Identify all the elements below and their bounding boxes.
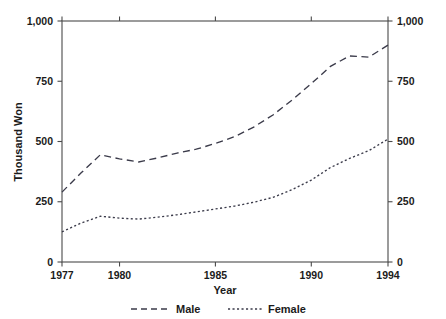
y-tick-label-right-1000: 1,000 [397, 15, 423, 27]
y-axis-title: Thousand Won [12, 102, 24, 182]
y-tick-label-left-1000: 1,000 [27, 15, 53, 27]
line-chart: 1977198019851990199400250250500500750750… [0, 0, 446, 319]
x-tick-label-1994: 1994 [376, 269, 400, 281]
x-tick-label-1980: 1980 [108, 269, 132, 281]
legend-label-female: Female [268, 303, 306, 315]
y-tick-label-right-750: 750 [397, 75, 415, 87]
legend-label-male: Male [176, 303, 200, 315]
x-axis-title: Year [213, 284, 237, 296]
chart-figure: 1977198019851990199400250250500500750750… [0, 0, 446, 319]
y-tick-label-left-250: 250 [35, 195, 53, 207]
x-tick-label-1977: 1977 [50, 269, 74, 281]
y-tick-label-left-750: 750 [35, 75, 53, 87]
axis-tick-labels: 1977198019851990199400250250500500750750… [27, 15, 424, 281]
x-tick-label-1985: 1985 [204, 269, 228, 281]
y-tick-label-left-0: 0 [47, 256, 53, 268]
series-line-female [62, 139, 388, 232]
series-line-male [62, 45, 388, 192]
x-tick-label-1990: 1990 [300, 269, 324, 281]
axis-ticks [58, 17, 393, 267]
plot-frame [62, 21, 388, 262]
data-series [62, 45, 388, 232]
y-tick-label-right-250: 250 [397, 195, 415, 207]
y-tick-label-right-0: 0 [397, 256, 403, 268]
y-tick-label-right-500: 500 [397, 135, 415, 147]
chart-legend: Male Female [131, 303, 306, 315]
y-tick-label-left-500: 500 [35, 135, 53, 147]
